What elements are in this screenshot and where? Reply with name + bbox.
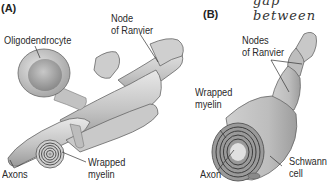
label-axon: Axon — [200, 168, 221, 180]
label-nodes-of-ranvier-b-line1: Nodes — [242, 34, 269, 46]
label-node-of-ranvier-a-line1: Node — [111, 12, 133, 24]
label-schwann-cell-line1: Schwann — [289, 155, 327, 167]
label-node-of-ranvier-a-line2: of Ranvier — [111, 24, 153, 36]
label-wrapped-myelin-b-line1: Wrapped — [195, 86, 232, 98]
label-schwann-cell-line2: cell — [289, 167, 303, 179]
panel-b-label: (B) — [203, 8, 218, 20]
panel-a-label: (A) — [1, 2, 16, 14]
label-wrapped-myelin-a-line1: Wrapped — [88, 156, 125, 168]
panel-a-illustration — [8, 34, 183, 168]
label-wrapped-myelin-a-line2: myelin — [88, 168, 115, 180]
myelination-illustration — [0, 0, 331, 184]
label-nodes-of-ranvier-b-line2: of Ranvier — [242, 46, 284, 58]
label-axons: Axons — [2, 168, 28, 180]
label-wrapped-myelin-b-line2: myelin — [195, 98, 222, 110]
label-oligodendrocyte: Oligodendrocyte — [4, 34, 71, 46]
